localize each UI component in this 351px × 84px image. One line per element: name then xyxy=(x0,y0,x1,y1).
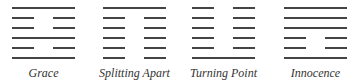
line-segment xyxy=(53,27,75,29)
line-segment xyxy=(233,47,255,49)
yang-line xyxy=(12,37,75,39)
line-segment xyxy=(325,37,347,39)
yin-line xyxy=(103,57,166,59)
line-segment xyxy=(103,7,166,9)
yin-line xyxy=(103,37,166,39)
yang-line xyxy=(284,17,347,19)
line-segment xyxy=(325,47,347,49)
line-segment xyxy=(12,57,75,59)
line-segment xyxy=(53,47,75,49)
line-segment xyxy=(192,37,214,39)
line-segment xyxy=(103,57,125,59)
yin-line xyxy=(12,27,75,29)
line-segment xyxy=(12,7,75,9)
line-segment xyxy=(103,47,125,49)
hexagram-label: Splitting Apart xyxy=(83,66,186,81)
line-segment xyxy=(192,27,214,29)
line-segment xyxy=(192,17,214,19)
line-segment xyxy=(233,17,255,19)
line-segment xyxy=(284,7,347,9)
line-segment xyxy=(233,37,255,39)
yin-line xyxy=(192,27,255,29)
line-segment xyxy=(144,47,166,49)
yin-line xyxy=(103,47,166,49)
line-segment xyxy=(144,27,166,29)
line-segment xyxy=(103,27,125,29)
yin-line xyxy=(284,47,347,49)
line-segment xyxy=(284,37,306,39)
yin-line xyxy=(192,47,255,49)
line-segment xyxy=(12,27,34,29)
yin-line xyxy=(284,37,347,39)
yin-line xyxy=(192,17,255,19)
line-segment xyxy=(144,37,166,39)
hexagram-label: Innocence xyxy=(264,66,351,81)
hexagram-innocence: Innocence xyxy=(284,0,347,84)
hexagram-label: Turning Point xyxy=(172,66,275,81)
line-segment xyxy=(144,17,166,19)
line-segment xyxy=(192,57,255,59)
line-segment xyxy=(12,37,75,39)
yang-line xyxy=(12,7,75,9)
hexagram-label: Grace xyxy=(0,66,95,81)
yin-line xyxy=(192,37,255,39)
line-segment xyxy=(192,47,214,49)
line-segment xyxy=(12,17,34,19)
line-segment xyxy=(103,37,125,39)
line-segment xyxy=(284,57,347,59)
line-segment xyxy=(284,47,306,49)
yin-line xyxy=(103,17,166,19)
line-segment xyxy=(233,7,255,9)
hexagram-turning-point: Turning Point xyxy=(192,0,255,84)
yin-line xyxy=(12,17,75,19)
line-segment xyxy=(233,27,255,29)
line-segment xyxy=(53,17,75,19)
yang-line xyxy=(284,27,347,29)
yang-line xyxy=(103,7,166,9)
line-segment xyxy=(284,27,347,29)
yang-line xyxy=(12,57,75,59)
yang-line xyxy=(284,7,347,9)
line-segment xyxy=(192,7,214,9)
yang-line xyxy=(192,57,255,59)
line-segment xyxy=(284,17,347,19)
hexagram-grace: Grace xyxy=(12,0,75,84)
line-segment xyxy=(12,47,34,49)
line-segment xyxy=(144,57,166,59)
line-segment xyxy=(103,17,125,19)
yang-line xyxy=(284,57,347,59)
yin-line xyxy=(192,7,255,9)
yin-line xyxy=(12,47,75,49)
hexagram-splitting-apart: Splitting Apart xyxy=(103,0,166,84)
yin-line xyxy=(103,27,166,29)
